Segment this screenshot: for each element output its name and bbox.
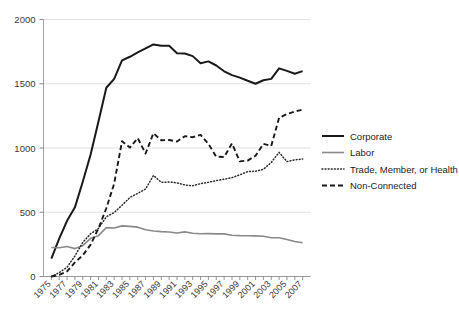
series-line-non-connected (51, 110, 302, 277)
legend-label-corporate: Corporate (350, 131, 392, 142)
y-axis-tick-label: 500 (20, 207, 36, 218)
y-axis-tick-label: 1500 (14, 78, 35, 89)
y-axis-tick-label: 0 (30, 271, 35, 282)
y-axis-tick-label: 2000 (14, 14, 35, 25)
legend-label-labor: Labor (350, 147, 374, 158)
series-line-trade-member-or-health (51, 152, 302, 276)
chart-legend: CorporateLaborTrade, Member, or HealthNo… (322, 131, 458, 192)
y-axis-tick-label: 1000 (14, 143, 35, 154)
x-axis: 1975197719791981198319851987198919911993… (32, 277, 311, 301)
legend-label-non-connected: Non-Connected (350, 180, 417, 191)
series-line-corporate (51, 44, 302, 258)
legend-label-trade-member-or-health: Trade, Member, or Health (350, 164, 458, 175)
line-chart: 0500100015002000 19751977197919811983198… (0, 0, 459, 321)
y-axis: 0500100015002000 (14, 14, 43, 282)
data-series-group (51, 44, 302, 276)
chart-container: 0500100015002000 19751977197919811983198… (0, 0, 459, 321)
x-axis-tick-label: 2007 (283, 279, 304, 300)
